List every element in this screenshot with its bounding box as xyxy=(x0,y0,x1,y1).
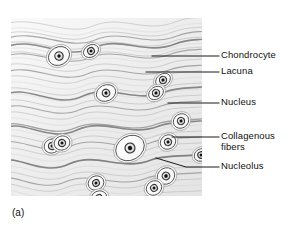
figure-caption: (a) xyxy=(12,207,24,218)
micrograph-image xyxy=(11,18,202,196)
label-collagenous-fibers: Collagenous fibers xyxy=(221,130,275,152)
label-chondrocyte: Chondrocyte xyxy=(221,49,276,60)
label-nucleus: Nucleus xyxy=(221,96,256,107)
label-nucleolus: Nucleolus xyxy=(221,160,264,171)
figure-panel-a: Chondrocyte Lacuna Nucleus Collagenous f… xyxy=(0,0,293,230)
label-lacuna: Lacuna xyxy=(221,65,253,76)
